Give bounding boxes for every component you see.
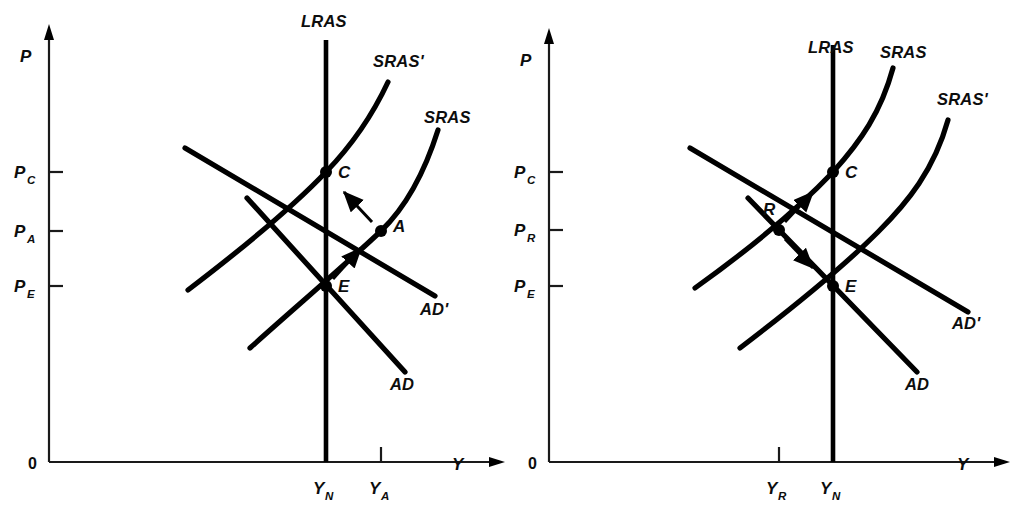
figure-root: LRAS SRAS' SRAS AD' AD C A E P 0 Y P C P… (0, 0, 1024, 513)
x-axis-arrowhead (489, 457, 505, 467)
label-point-c: C (845, 163, 858, 182)
x-tick-label-yn: Y N (820, 479, 841, 502)
y-tick-pc-base: P (14, 163, 26, 182)
y-axis-arrowhead (544, 28, 554, 44)
y-axis-arrowhead (44, 24, 54, 40)
curve-sras-prime (740, 120, 948, 348)
y-tick-pc-sub: C (27, 174, 36, 186)
y-tick-pr-base: P (514, 221, 526, 240)
label-x-axis-y: Y (957, 455, 970, 474)
y-tick-pa-base: P (14, 222, 26, 241)
x-tick-yn-sub: N (832, 490, 841, 502)
y-tick-pe-sub: E (527, 288, 535, 300)
label-point-a: A (392, 217, 405, 236)
y-tick-label-pa: P A (14, 222, 35, 245)
label-y-axis-p: P (20, 47, 32, 66)
label-point-r: R (763, 200, 776, 219)
y-tick-label-pe: P E (14, 277, 35, 300)
y-tick-label-pc: P C (514, 163, 536, 186)
point-e-dot (320, 280, 332, 292)
x-tick-label-ya: Y A (369, 479, 389, 502)
label-sras: SRAS (880, 43, 927, 61)
y-tick-pe-base: P (14, 277, 26, 296)
y-tick-pa-sub: A (26, 233, 35, 245)
arrow-a-to-c (344, 192, 372, 222)
y-tick-label-pc: P C (14, 163, 36, 186)
label-point-e: E (845, 277, 857, 296)
y-tick-pc-sub: C (527, 174, 536, 186)
x-tick-label-yr: Y R (766, 479, 787, 502)
curve-sras-prime (188, 82, 388, 290)
label-point-e: E (338, 277, 350, 296)
arrow-r-to-e (785, 239, 813, 268)
arrow-e-to-a (333, 248, 361, 279)
y-tick-pe-base: P (514, 277, 526, 296)
panel-demand-shock: LRAS SRAS' SRAS AD' AD C A E P 0 Y P C P… (0, 0, 512, 513)
label-point-c: C (338, 163, 351, 182)
point-e-dot (827, 280, 839, 292)
x-tick-label-yn: Y N (313, 479, 334, 502)
label-ad-prime: AD' (951, 314, 981, 332)
point-r-dot (773, 224, 785, 236)
label-sras: SRAS (424, 108, 471, 126)
label-lras: LRAS (808, 38, 854, 56)
label-y-axis-p: P (520, 51, 532, 70)
panel-supply-shock: LRAS SRAS SRAS' AD' AD C R E P 0 Y P C P… (512, 0, 1024, 513)
point-c-dot (827, 166, 839, 178)
label-ad: AD (904, 375, 929, 393)
y-tick-label-pr: P R (514, 221, 536, 244)
y-tick-pc-base: P (514, 163, 526, 182)
curve-sras (695, 68, 893, 288)
label-sras-prime: SRAS' (373, 52, 425, 70)
label-ad-prime: AD' (419, 300, 449, 318)
x-tick-yn-sub: N (325, 490, 334, 502)
label-sras-prime: SRAS' (937, 90, 989, 108)
x-axis-arrowhead (994, 457, 1010, 467)
label-x-axis-y: Y (452, 455, 465, 474)
x-tick-yr-sub: R (778, 490, 787, 502)
label-origin: 0 (528, 455, 537, 472)
x-tick-ya-sub: A (380, 490, 389, 502)
point-a-dot (375, 225, 387, 237)
y-tick-label-pe: P E (514, 277, 535, 300)
y-tick-pr-sub: R (527, 232, 536, 244)
axis-group-left (44, 24, 505, 467)
label-origin: 0 (28, 455, 37, 472)
label-lras: LRAS (301, 12, 347, 30)
y-tick-pe-sub: E (27, 288, 35, 300)
label-ad: AD (389, 375, 414, 393)
point-c-dot (320, 166, 332, 178)
